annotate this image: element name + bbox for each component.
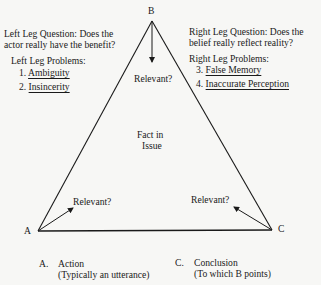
relevant-label-right: Relevant? — [191, 194, 229, 205]
left-leg-problem-2: 2. Insincerity — [19, 81, 70, 92]
problem-number: 3. — [196, 64, 203, 75]
base-line — [38, 230, 272, 231]
legend-a-line2: (Typically an utterance) — [58, 269, 150, 280]
legend-c-key: C. — [175, 257, 184, 268]
left-leg-question-line1: Left Leg Question: Does the — [4, 28, 113, 39]
problem-label: False Memory — [206, 64, 262, 75]
fact-in-issue-line2: Issue — [142, 140, 162, 151]
vertex-a-label: A — [24, 225, 31, 236]
legend-a-line1: Action — [58, 258, 84, 269]
right-leg-question-line2: belief really reflect reality? — [189, 37, 293, 48]
right-leg-question-line1: Right Leg Question: Does the — [189, 26, 304, 37]
legend-c-line1: Conclusion — [194, 257, 238, 268]
left-leg-problem-1: 1. Ambiguity — [19, 67, 70, 78]
left-leg-question-line2: actor really have the benefit? — [4, 39, 115, 50]
problem-number: 1. — [19, 67, 26, 78]
vertex-c-label: C — [278, 223, 284, 234]
relevant-label-top: Relevant? — [134, 73, 172, 84]
c-relevance-arrow — [234, 207, 272, 230]
fact-in-issue-line1: Fact in — [137, 129, 163, 140]
problem-label: Insincerity — [29, 81, 70, 92]
right-leg-problem-4: 4. Inaccurate Perception — [196, 78, 289, 89]
vertex-b-label: B — [148, 5, 154, 16]
problem-number: 2. — [19, 81, 26, 92]
problem-number: 4. — [196, 78, 203, 89]
a-relevance-arrow — [38, 208, 73, 231]
legend-a-key: A. — [39, 258, 48, 269]
right-leg-problems-heading: Right Leg Problems: — [189, 53, 269, 64]
legend-c-line2: (To which B points) — [194, 268, 271, 279]
left-leg-problems-heading: Left Leg Problems: — [11, 55, 86, 66]
problem-label: Ambiguity — [28, 67, 70, 78]
relevant-label-left: Relevant? — [73, 196, 111, 207]
problem-label: Inaccurate Perception — [206, 78, 289, 89]
right-leg-problem-3: 3. False Memory — [196, 64, 261, 75]
